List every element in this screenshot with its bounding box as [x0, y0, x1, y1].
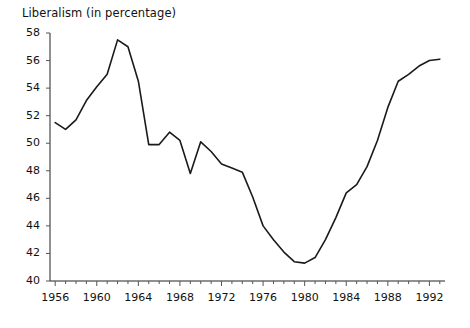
x-tick-label: 1968: [160, 291, 200, 304]
y-tick-label: 54: [14, 81, 40, 94]
x-tick-label: 1976: [243, 291, 283, 304]
y-tick-label: 48: [14, 164, 40, 177]
liberalism-line-chart: Liberalism (in percentage) 4042444648505…: [0, 0, 470, 328]
y-tick-label: 58: [14, 26, 40, 39]
y-tick-label: 50: [14, 136, 40, 149]
data-series-group: [55, 40, 440, 263]
plot-area-svg: [0, 0, 470, 328]
y-tick-label: 56: [14, 54, 40, 67]
y-tick-label: 40: [14, 274, 40, 287]
y-tick-label: 42: [14, 246, 40, 259]
x-tick-label: 1992: [409, 291, 449, 304]
y-tick-label: 44: [14, 219, 40, 232]
y-tick-label: 46: [14, 191, 40, 204]
x-tick-label: 1960: [77, 291, 117, 304]
y-tick-marks: [46, 33, 50, 281]
x-tick-label: 1972: [202, 291, 242, 304]
x-tick-marks: [55, 281, 440, 286]
x-tick-label: 1956: [35, 291, 75, 304]
x-tick-label: 1988: [368, 291, 408, 304]
y-tick-label: 52: [14, 109, 40, 122]
x-tick-label: 1964: [118, 291, 158, 304]
x-tick-label: 1980: [285, 291, 325, 304]
x-tick-label: 1984: [326, 291, 366, 304]
